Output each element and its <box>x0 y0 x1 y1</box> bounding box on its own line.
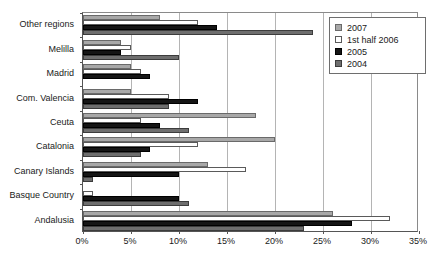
bar <box>83 104 169 109</box>
legend-label: 2007 <box>347 23 367 33</box>
y-axis-category-label: Basque Country <box>9 190 74 200</box>
y-axis-tick <box>80 62 83 63</box>
y-axis-tick <box>80 37 83 38</box>
y-axis-category-label: Andalusia <box>34 215 74 225</box>
bar <box>83 128 189 133</box>
y-axis-tick <box>80 135 83 136</box>
y-axis-category-label: Com. Valencia <box>16 93 74 103</box>
y-axis-category-label: Catalonia <box>36 141 74 151</box>
y-axis-category-label: Madrid <box>46 68 74 78</box>
bar <box>83 152 141 157</box>
x-axis-tick-label: 0% <box>62 236 102 246</box>
bar <box>83 172 179 177</box>
x-axis-tick-label: 35% <box>398 236 437 246</box>
y-axis-category-label: Canary Islands <box>14 166 74 176</box>
y-axis-tick <box>80 86 83 87</box>
legend-entry[interactable]: 2005 <box>335 46 420 57</box>
x-axis-tick-label: 30% <box>350 236 390 246</box>
x-axis-tick-label: 25% <box>302 236 342 246</box>
x-axis-tick-label: 15% <box>206 236 246 246</box>
y-axis-category-labels: Other regionsMelillaMadridCom. ValenciaC… <box>0 12 78 232</box>
bar-group <box>83 184 417 208</box>
bar <box>83 55 179 60</box>
chart-legend: 20071st half 200620052004 <box>329 17 426 74</box>
y-axis-tick <box>80 184 83 185</box>
horizontal-bar-chart: Other regionsMelillaMadridCom. ValenciaC… <box>0 0 437 266</box>
bar-group <box>83 111 417 135</box>
y-axis-tick <box>80 160 83 161</box>
legend-entry[interactable]: 2004 <box>335 58 420 69</box>
legend-label: 1st half 2006 <box>347 35 399 45</box>
y-axis-tick <box>80 111 83 112</box>
legend-entry[interactable]: 2007 <box>335 22 420 33</box>
legend-swatch-icon <box>335 60 342 67</box>
y-axis-tick <box>80 13 83 14</box>
bar-group <box>83 135 417 159</box>
legend-swatch-icon <box>335 24 342 31</box>
x-axis-tick-label: 10% <box>158 236 198 246</box>
legend-label: 2004 <box>347 59 367 69</box>
bar-group <box>83 86 417 110</box>
bar <box>83 30 313 35</box>
x-axis-tick-labels: 0%5%10%15%20%25%30%35% <box>0 236 437 252</box>
y-axis-category-label: Melilla <box>48 44 74 54</box>
x-axis-tick-label: 20% <box>254 236 294 246</box>
bar-group <box>83 160 417 184</box>
bar-group <box>83 209 417 233</box>
legend-swatch-icon <box>335 36 342 43</box>
y-axis-category-label: Other regions <box>19 19 74 29</box>
bar <box>83 201 189 206</box>
legend-swatch-icon <box>335 48 342 55</box>
x-axis-tick <box>419 231 420 234</box>
bar <box>83 177 93 182</box>
bar <box>83 74 150 79</box>
bar <box>83 226 304 231</box>
y-axis-tick <box>80 209 83 210</box>
x-axis-tick-label: 5% <box>110 236 150 246</box>
legend-label: 2005 <box>347 47 367 57</box>
y-axis-category-label: Ceuta <box>50 117 74 127</box>
legend-entry[interactable]: 1st half 2006 <box>335 34 420 45</box>
